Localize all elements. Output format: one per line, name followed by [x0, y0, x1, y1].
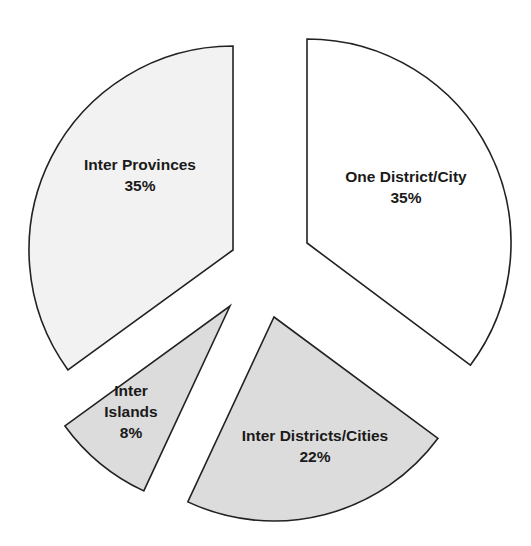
- slice-percent: 35%: [124, 177, 155, 194]
- slice-name: Inter Provinces: [84, 156, 196, 173]
- slice-name: Inter Districts/Cities: [242, 427, 388, 444]
- slice-percent: 8%: [120, 424, 143, 441]
- slice-name: Islands: [104, 403, 157, 420]
- slice-name: Inter: [114, 382, 148, 399]
- pie-slices: [29, 39, 511, 521]
- pie-chart: One District/City35%Inter Districts/Citi…: [0, 0, 531, 546]
- pie-slice-inter-provinces: [29, 46, 233, 370]
- slice-percent: 22%: [299, 448, 330, 465]
- slice-name: One District/City: [345, 168, 467, 185]
- pie-slice-inter-districts-cities: [188, 317, 438, 521]
- slice-percent: 35%: [390, 189, 421, 206]
